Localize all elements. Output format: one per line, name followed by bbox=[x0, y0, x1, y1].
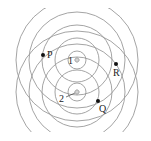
source-1-label: 1 bbox=[68, 55, 73, 66]
source-1-marker bbox=[74, 57, 80, 63]
source-2-wavefronts bbox=[16, 31, 138, 141]
source-2-label: 2 bbox=[59, 93, 64, 104]
point-q-label: Q bbox=[99, 103, 107, 114]
point-p-marker bbox=[41, 53, 45, 57]
source-2-marker bbox=[74, 89, 80, 95]
point-r-label: R bbox=[113, 67, 120, 78]
interference-diagram: 1 2 P R Q bbox=[0, 0, 151, 141]
point-p-label: P bbox=[47, 49, 53, 60]
point-r-marker bbox=[114, 62, 118, 66]
wavefronts bbox=[16, 0, 138, 141]
